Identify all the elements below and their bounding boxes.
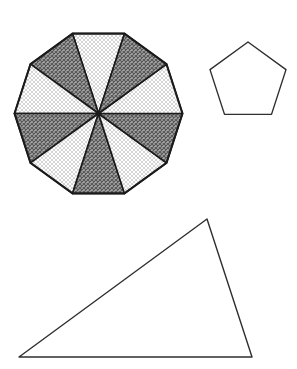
shaded-decagon [15,34,183,194]
pentagon-outline [210,42,286,114]
geometry-figure [0,0,297,369]
figure-page [0,0,297,369]
triangle-outline [19,219,252,357]
